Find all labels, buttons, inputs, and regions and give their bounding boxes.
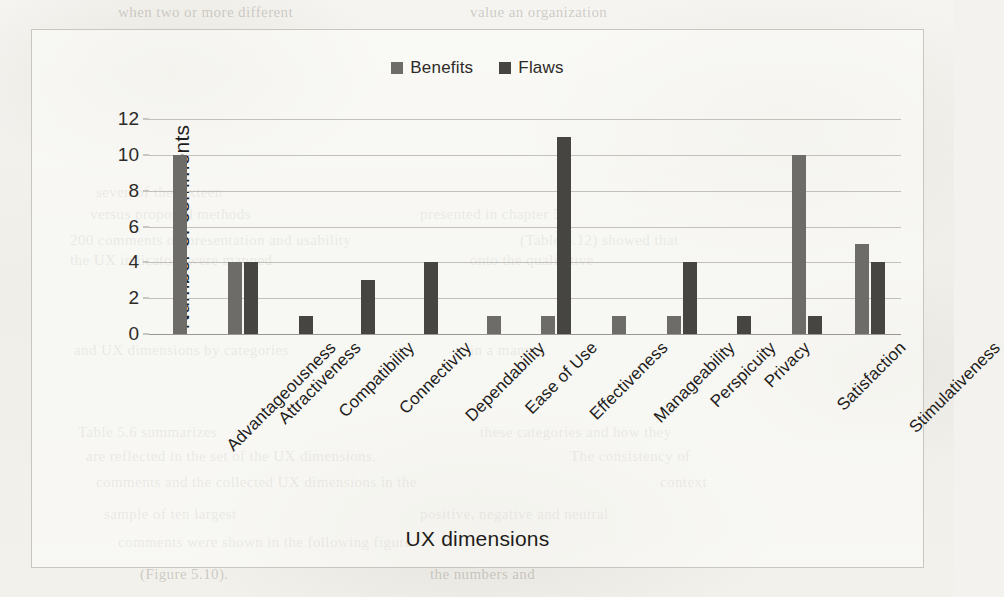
x-category-label: Stimulativeness (905, 338, 1004, 437)
bar-group (776, 119, 839, 334)
y-tick-label: 2 (128, 287, 139, 309)
bar-group (713, 119, 776, 334)
legend-label-flaws: Flaws (518, 58, 563, 78)
chart-legend: Benefits Flaws (32, 58, 923, 78)
legend-entry-flaws: Flaws (499, 58, 563, 78)
bar-group (462, 119, 525, 334)
y-tick-label: 4 (128, 251, 139, 273)
bar-group (212, 119, 275, 334)
bleed-text: value an organization (470, 4, 607, 21)
gridline (149, 334, 901, 335)
bar-flaws (244, 262, 258, 334)
y-tick-label: 8 (128, 180, 139, 202)
x-axis-title: UX dimensions (32, 527, 923, 551)
bar-benefits (541, 316, 555, 334)
legend-swatch-benefits (391, 62, 403, 74)
bar-group (650, 119, 713, 334)
bar-group (274, 119, 337, 334)
bar-benefits (792, 155, 806, 334)
y-tick-label: 0 (128, 323, 139, 345)
bar-flaws (683, 262, 697, 334)
plot-area: 024681012 (149, 119, 901, 334)
legend-swatch-flaws (499, 62, 511, 74)
bar-group (588, 119, 651, 334)
bleed-text: (Figure 5.10). (140, 566, 229, 583)
chart-frame: Benefits Flaws Number of comments 024681… (31, 29, 924, 568)
bar-flaws (424, 262, 438, 334)
legend-label-benefits: Benefits (410, 58, 473, 78)
bars-layer (149, 119, 901, 334)
y-tick-label: 12 (118, 108, 139, 130)
bar-group (149, 119, 212, 334)
bar-benefits (855, 244, 869, 334)
bleed-text: when two or more different (118, 4, 293, 21)
bar-benefits (228, 262, 242, 334)
bar-flaws (737, 316, 751, 334)
bar-flaws (361, 280, 375, 334)
bar-benefits (487, 316, 501, 334)
legend-entry-benefits: Benefits (391, 58, 473, 78)
bleed-text: the numbers and (430, 566, 535, 583)
bar-flaws (299, 316, 313, 334)
y-tick-label: 10 (118, 144, 139, 166)
y-tick-label: 6 (128, 216, 139, 238)
bar-flaws (557, 137, 571, 334)
bar-benefits (173, 155, 187, 334)
bar-group (838, 119, 901, 334)
bar-group (337, 119, 400, 334)
bar-flaws (871, 262, 885, 334)
x-category-label: Satisfaction (833, 338, 910, 415)
x-axis-category-labels: AdvantageousnessAttractivenessCompatibil… (149, 338, 901, 498)
bar-group (525, 119, 588, 334)
x-category-label: Advantageousness (223, 338, 341, 456)
bar-group (400, 119, 463, 334)
bar-benefits (667, 316, 681, 334)
bar-benefits (612, 316, 626, 334)
bar-flaws (808, 316, 822, 334)
